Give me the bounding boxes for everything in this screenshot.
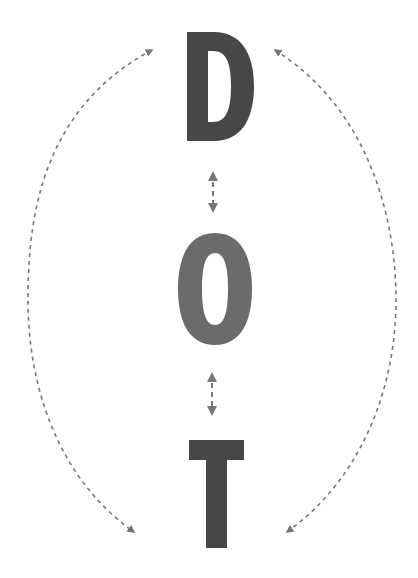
letter-t — [189, 440, 244, 548]
diagram-graphics — [0, 0, 418, 578]
arc-right-d-t — [275, 50, 396, 532]
letter-d — [187, 32, 254, 141]
dot-diagram: DOT D O T — [0, 0, 418, 578]
letter-o — [178, 233, 252, 345]
arc-left-d-t — [28, 50, 152, 532]
